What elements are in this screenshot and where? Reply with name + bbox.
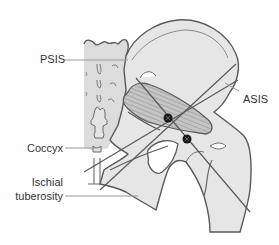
pelvis-illustration bbox=[0, 0, 279, 245]
psis-label: PSIS bbox=[40, 53, 65, 66]
coccyx-label: Coccyx bbox=[22, 142, 63, 155]
ischial-tuberosity-label-line2: tuberosity bbox=[10, 190, 63, 203]
pelvis-diagram: PSIS ASIS Coccyx Ischial tuberosity bbox=[0, 0, 279, 245]
ischial-tuberosity-label-line1: Ischial bbox=[14, 176, 63, 189]
asis-label: ASIS bbox=[243, 93, 268, 106]
